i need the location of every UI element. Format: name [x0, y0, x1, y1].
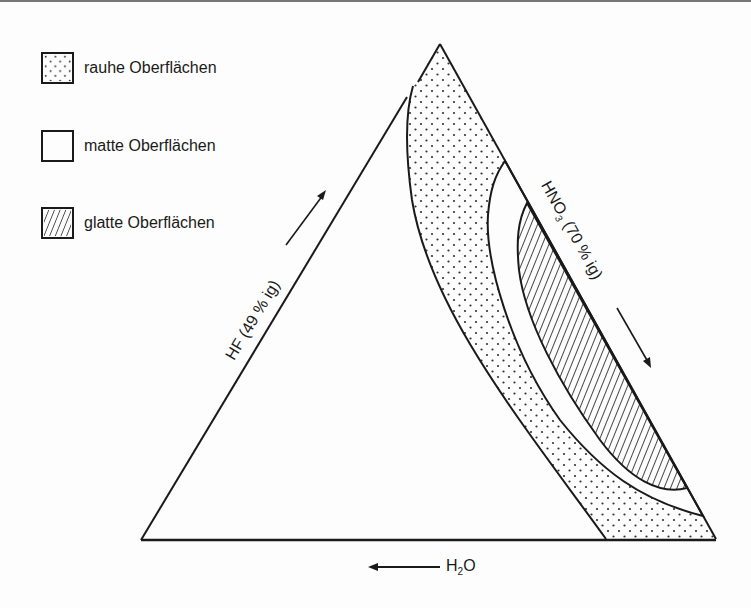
legend-item-smooth: glatte Oberflächen — [41, 207, 215, 239]
hatch-swatch-icon — [41, 207, 74, 239]
ternary-diagram — [0, 0, 751, 608]
legend-item-rough: rauhe Oberflächen — [41, 52, 217, 84]
subscript: 2 — [458, 566, 464, 577]
plain-swatch-icon — [41, 130, 74, 162]
axis-label-text: O — [463, 557, 475, 574]
arrow-left-icon — [368, 563, 440, 571]
legend-item-matte: matte Oberflächen — [41, 130, 216, 162]
legend-label: glatte Oberflächen — [84, 214, 215, 232]
legend-label: rauhe Oberflächen — [84, 59, 217, 77]
dots-swatch-icon — [41, 52, 74, 84]
axis-label-h2o: H2O — [446, 557, 476, 575]
axis-label-text: H — [446, 557, 458, 574]
triangle-left-edge — [141, 97, 407, 540]
arrow-down-icon — [617, 308, 651, 368]
arrow-up-icon — [286, 190, 326, 245]
legend-label: matte Oberflächen — [84, 137, 216, 155]
